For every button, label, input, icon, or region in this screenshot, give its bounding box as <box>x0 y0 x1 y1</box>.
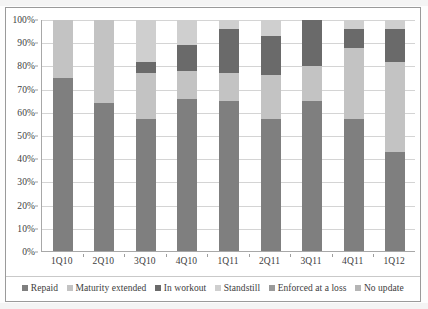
y-axis-tick-label: 20% <box>17 201 35 211</box>
bar-segment <box>94 20 114 103</box>
y-axis-tick-label: 60% <box>17 108 35 118</box>
y-axis: 0%10%20%30%40%50%60%70%80%90%100% <box>0 20 38 252</box>
x-axis-tick <box>124 254 125 257</box>
legend-item: Standstill <box>215 283 260 294</box>
legend-label: Repaid <box>31 283 58 294</box>
x-axis-tick <box>249 254 250 257</box>
x-axis-tick <box>332 254 333 257</box>
bar-segment <box>385 152 405 251</box>
y-axis-tick <box>35 89 38 90</box>
x-axis-tick-label: 4Q11 <box>342 256 363 267</box>
legend-swatch-icon <box>155 285 161 291</box>
x-axis-tick-label: 2Q10 <box>93 256 115 267</box>
x-axis-tick-label: 1Q10 <box>51 256 73 267</box>
scan-edge-top <box>0 0 428 6</box>
bar-segment <box>136 20 156 62</box>
bars-layer <box>42 20 415 251</box>
x-axis-tick <box>207 254 208 257</box>
bar-segment <box>136 62 156 74</box>
y-axis-tick-label: 10% <box>17 224 35 234</box>
bar-segment <box>385 62 405 152</box>
scan-edge-bottom <box>0 303 428 309</box>
legend-item: Repaid <box>22 283 58 294</box>
bar-segment <box>261 36 281 75</box>
y-axis-tick-label: 90% <box>17 38 35 48</box>
bar-segment <box>344 48 364 120</box>
bar-segment <box>344 119 364 251</box>
y-axis-tick <box>35 228 38 229</box>
bar-segment <box>53 78 73 251</box>
y-axis-tick-label: 50% <box>17 131 35 141</box>
bar-segment <box>177 71 197 99</box>
legend-swatch-icon <box>355 285 361 291</box>
bar-segment <box>136 73 156 119</box>
y-axis-tick <box>35 43 38 44</box>
legend-swatch-icon <box>22 285 28 291</box>
x-axis-tick-label: 3Q10 <box>134 256 156 267</box>
bar-segment <box>177 99 197 251</box>
y-axis-tick <box>35 205 38 206</box>
bar-segment <box>219 101 239 251</box>
legend-label: Standstill <box>224 283 260 294</box>
y-axis-tick-label: 30% <box>17 177 35 187</box>
bar-segment <box>302 20 322 66</box>
bar-segment <box>385 29 405 61</box>
legend-label: Enforced at a loss <box>278 283 347 294</box>
bar-segment <box>136 119 156 251</box>
bar-2q11 <box>261 20 281 251</box>
legend-swatch-icon <box>269 285 275 291</box>
y-axis-tick-label: 40% <box>17 154 35 164</box>
legend-swatch-icon <box>67 285 73 291</box>
x-axis-tick-label: 1Q12 <box>383 256 405 267</box>
legend-item: No update <box>355 283 403 294</box>
bar-4q10 <box>177 20 197 251</box>
bar-3q10 <box>136 20 156 251</box>
bar-segment <box>177 20 197 45</box>
bar-segment <box>53 20 73 78</box>
legend-item: Enforced at a loss <box>269 283 346 294</box>
y-axis-tick <box>35 112 38 113</box>
x-axis-tick <box>83 254 84 257</box>
x-axis-tick-label: 1Q11 <box>217 256 238 267</box>
legend-swatch-icon <box>215 285 221 291</box>
y-axis-tick <box>35 182 38 183</box>
bar-segment <box>261 20 281 36</box>
bar-segment <box>261 119 281 251</box>
bar-1q12 <box>385 20 405 251</box>
bar-1q11 <box>219 20 239 251</box>
legend-label: Maturity extended <box>76 283 147 294</box>
plot-area <box>41 20 415 252</box>
bar-2q10 <box>94 20 114 251</box>
bar-4q11 <box>344 20 364 251</box>
x-axis: 1Q102Q103Q104Q101Q112Q113Q114Q111Q12 <box>41 254 415 272</box>
bar-segment <box>302 101 322 251</box>
x-axis-tick-label: 4Q10 <box>176 256 198 267</box>
bar-1q10 <box>53 20 73 251</box>
x-axis-tick-label: 3Q11 <box>301 256 322 267</box>
x-axis-tick <box>373 254 374 257</box>
x-axis-tick <box>166 254 167 257</box>
legend-item: Maturity extended <box>67 283 146 294</box>
y-axis-tick <box>35 136 38 137</box>
x-axis-tick <box>290 254 291 257</box>
y-axis-tick-label: 70% <box>17 85 35 95</box>
y-axis-tick <box>35 66 38 67</box>
bar-segment <box>219 20 239 29</box>
y-axis-tick <box>35 252 38 253</box>
bar-segment <box>261 75 281 119</box>
bar-segment <box>219 29 239 73</box>
bar-segment <box>302 66 322 101</box>
legend-item: In workout <box>155 283 206 294</box>
y-axis-tick <box>35 159 38 160</box>
bar-segment <box>344 29 364 47</box>
y-axis-tick-label: 100% <box>12 15 35 25</box>
bar-segment <box>177 45 197 70</box>
legend-label: No update <box>364 283 404 294</box>
y-axis-tick-label: 0% <box>22 247 35 257</box>
stacked-bar-chart: 0%10%20%30%40%50%60%70%80%90%100% 1Q102Q… <box>0 0 428 309</box>
chart-legend: RepaidMaturity extendedIn workoutStandst… <box>6 276 420 296</box>
y-axis-tick <box>35 20 38 21</box>
bar-segment <box>219 73 239 101</box>
bar-segment <box>385 20 405 29</box>
y-axis-tick-label: 80% <box>17 61 35 71</box>
